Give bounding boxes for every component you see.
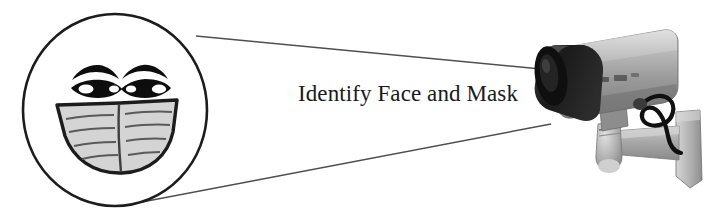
eye-right-highlight (126, 85, 136, 92)
figure-illustration (0, 0, 726, 220)
camera-label-mark-2 (614, 75, 627, 81)
eye-left-highlight-outer (109, 86, 119, 93)
sight-line-top (196, 36, 551, 70)
figure-canvas: Identify Face and Mask (0, 0, 726, 220)
face-with-mask-circle (23, 14, 207, 206)
camera-rear-connector (633, 98, 647, 110)
eye-right-highlight-outer (152, 85, 166, 94)
camera-wall-plate (676, 110, 702, 188)
cctv-security-camera (531, 30, 702, 188)
camera-label-mark-3 (631, 73, 639, 77)
eye-left-highlight (79, 84, 94, 93)
caption-identify-face-and-mask: Identify Face and Mask (288, 80, 528, 108)
